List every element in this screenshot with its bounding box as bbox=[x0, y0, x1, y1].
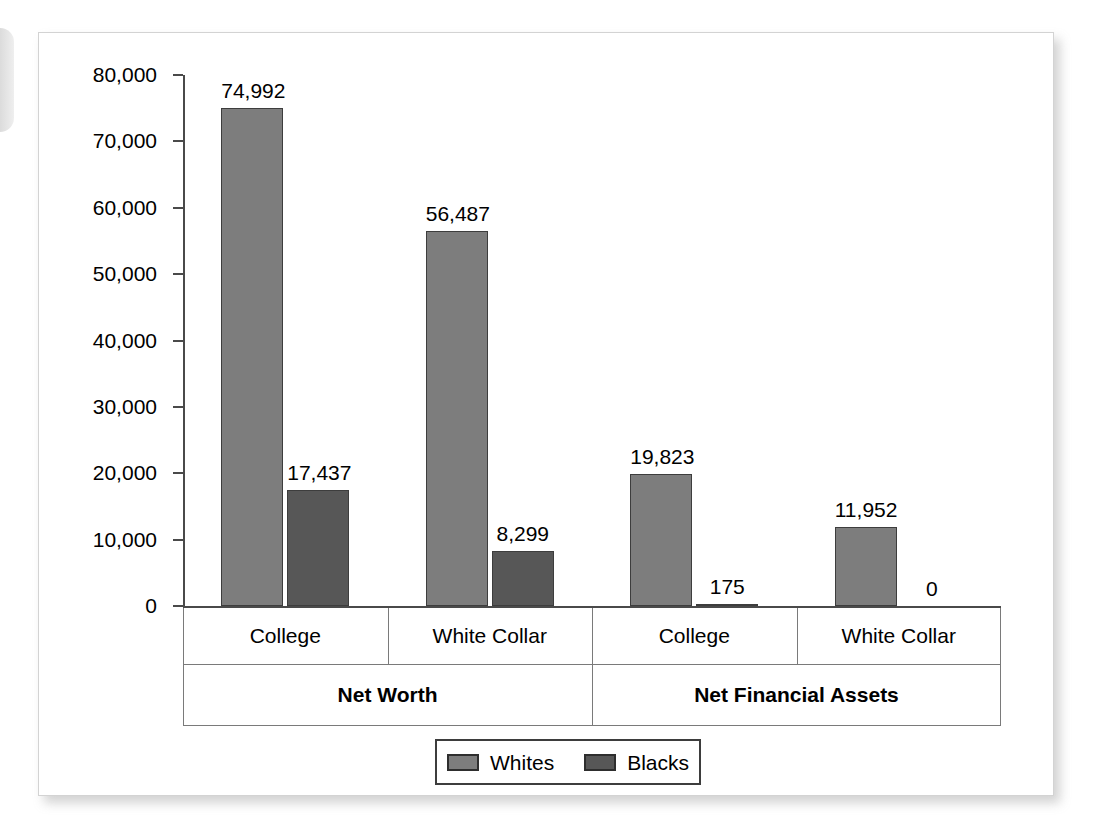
legend-item-whites: Whites bbox=[447, 752, 554, 773]
bar-whites-3 bbox=[835, 527, 897, 606]
bar-whites-2 bbox=[630, 474, 692, 606]
y-axis-tick bbox=[173, 472, 183, 474]
bar-blacks-0 bbox=[287, 490, 349, 606]
y-axis-line bbox=[183, 75, 185, 607]
category-label-0: College bbox=[183, 608, 388, 664]
category-label-1: White Collar bbox=[388, 608, 593, 664]
y-axis-tick-label: 40,000 bbox=[39, 330, 157, 351]
bar-blacks-2 bbox=[696, 604, 758, 606]
bar-value-label: 19,823 bbox=[630, 446, 692, 467]
y-axis-tick-label: 70,000 bbox=[39, 130, 157, 151]
bar-chart: 010,00020,00030,00040,00050,00060,00070,… bbox=[39, 33, 1055, 797]
chart-legend: WhitesBlacks bbox=[435, 739, 701, 785]
bar-value-label: 74,992 bbox=[221, 80, 283, 101]
y-axis-tick-label: 80,000 bbox=[39, 64, 157, 85]
bar-value-label: 56,487 bbox=[426, 203, 488, 224]
y-axis-tick-label: 30,000 bbox=[39, 396, 157, 417]
category-label-2: College bbox=[592, 608, 797, 664]
figure-panel: 010,00020,00030,00040,00050,00060,00070,… bbox=[38, 32, 1054, 796]
y-axis-tick bbox=[173, 605, 183, 607]
bar-value-label: 17,437 bbox=[287, 462, 349, 483]
page-root: 010,00020,00030,00040,00050,00060,00070,… bbox=[0, 0, 1094, 840]
bar-value-label: 8,299 bbox=[492, 523, 554, 544]
category-label-3: White Collar bbox=[797, 608, 1002, 664]
page-edge-tab-decoration bbox=[0, 28, 14, 132]
bar-value-label: 11,952 bbox=[835, 499, 897, 520]
y-axis-tick bbox=[173, 539, 183, 541]
group-label-1: Net Financial Assets bbox=[592, 664, 1001, 726]
y-axis-tick bbox=[173, 74, 183, 76]
group-label-0: Net Worth bbox=[183, 664, 592, 726]
y-axis-tick-label: 20,000 bbox=[39, 462, 157, 483]
bar-whites-0 bbox=[221, 108, 283, 606]
bar-blacks-1 bbox=[492, 551, 554, 606]
legend-item-blacks: Blacks bbox=[584, 752, 689, 773]
y-axis-tick bbox=[173, 340, 183, 342]
y-axis-tick-label: 0 bbox=[39, 595, 157, 616]
y-axis-tick bbox=[173, 406, 183, 408]
y-axis-tick-label: 50,000 bbox=[39, 263, 157, 284]
bar-value-label: 0 bbox=[901, 578, 963, 599]
y-axis-tick bbox=[173, 140, 183, 142]
category-axis-table: CollegeWhite CollarCollegeWhite CollarNe… bbox=[183, 608, 1001, 726]
y-axis-tick-label: 10,000 bbox=[39, 529, 157, 550]
legend-label: Blacks bbox=[627, 752, 689, 773]
y-axis-tick-label: 60,000 bbox=[39, 197, 157, 218]
bar-value-label: 175 bbox=[696, 576, 758, 597]
legend-swatch-blacks-icon bbox=[584, 754, 616, 771]
legend-label: Whites bbox=[490, 752, 554, 773]
y-axis-tick bbox=[173, 207, 183, 209]
bar-whites-1 bbox=[426, 231, 488, 606]
y-axis-tick bbox=[173, 273, 183, 275]
legend-swatch-whites-icon bbox=[447, 754, 479, 771]
